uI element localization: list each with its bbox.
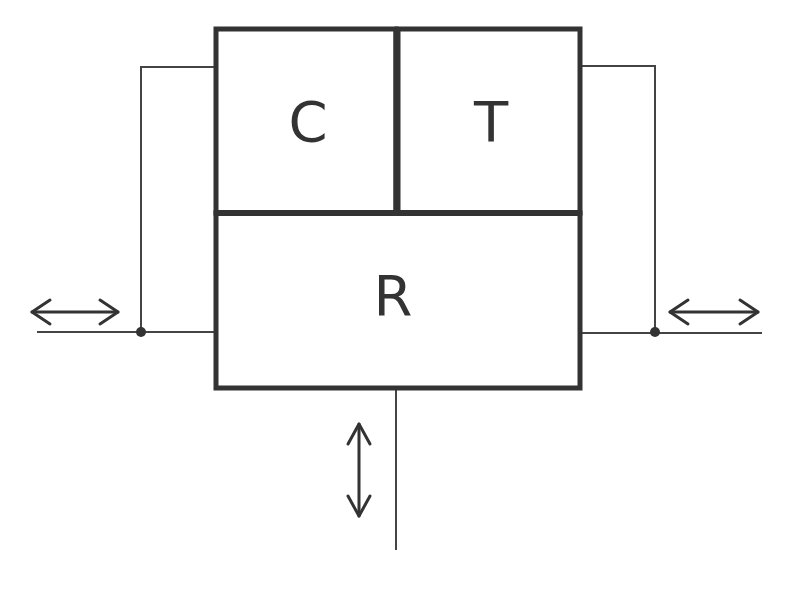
right-bidirectional-arrow-icon [670,300,758,324]
vertical-bidirectional-arrow-icon [348,424,370,516]
block-diagram: C T R [0,0,786,596]
block-t-label: T [473,89,509,154]
left-junction-dot [136,327,146,337]
block-r: R [216,213,580,388]
left-bidirectional-arrow-icon [32,300,118,324]
block-c: C [216,29,396,213]
right-junction-dot [650,327,660,337]
block-c-label: C [288,89,327,154]
right-connector [580,66,762,333]
block-t: T [397,29,580,213]
block-r-label: R [374,263,413,328]
left-connector [37,67,216,332]
